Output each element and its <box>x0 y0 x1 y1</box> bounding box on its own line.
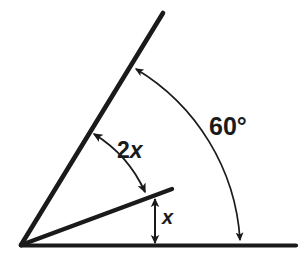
lower-angle-label: x <box>162 206 173 229</box>
angle-diagram-canvas <box>0 0 308 264</box>
outer-angle-label: 60° <box>209 112 247 141</box>
upper-angle-label: 2x <box>117 137 143 164</box>
upper-ray <box>21 13 163 245</box>
angle-diagram: 60° 2x x <box>0 0 308 264</box>
upper-angle-coefficient: 2 <box>117 137 130 163</box>
middle-ray <box>21 189 172 245</box>
upper-angle-variable: x <box>130 137 143 163</box>
outer-angle-arc <box>136 69 240 240</box>
